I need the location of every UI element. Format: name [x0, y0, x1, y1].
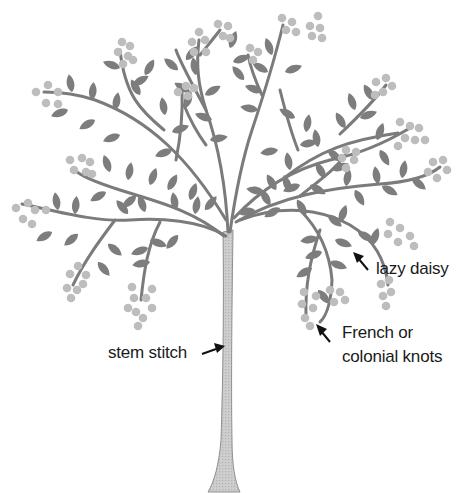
tree-illustration: [0, 0, 474, 493]
trunk: [208, 230, 240, 492]
lazy-daisy-arrow: [353, 252, 368, 270]
label-french-knots-line1: French or: [342, 322, 413, 343]
stem-stitch-arrow: [202, 343, 225, 354]
label-stem-stitch: stem stitch: [108, 342, 187, 363]
label-french-knots-line2: colonial knots: [342, 346, 442, 367]
label-lazy-daisy: lazy daisy: [376, 258, 449, 279]
french-knots-arrow: [316, 324, 330, 342]
